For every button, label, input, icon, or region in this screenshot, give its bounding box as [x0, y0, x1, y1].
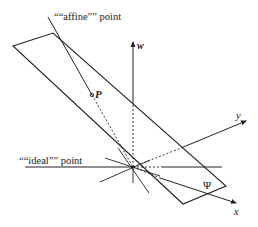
- plane-psi-label: Ψ: [203, 179, 212, 191]
- affine-point-label: ““affine”” point: [54, 11, 121, 22]
- pencil-line-2: [100, 160, 150, 182]
- x-axis-label: x: [233, 206, 239, 217]
- plane-psi: [13, 33, 226, 204]
- p-to-origin-dotted: [92, 95, 133, 167]
- ideal-point-label: ““ideal”” point: [19, 155, 82, 166]
- projective-plane-diagram: ““affine”” point ““ideal”” point P w y x…: [0, 0, 258, 227]
- w-axis-label: w: [137, 40, 144, 51]
- x-axis: [160, 178, 236, 203]
- y-axis: [181, 121, 246, 148]
- origin-marker: [132, 166, 135, 169]
- y-axis-label: y: [235, 110, 241, 121]
- affine-line: [48, 17, 92, 95]
- point-p-label: P: [95, 88, 102, 100]
